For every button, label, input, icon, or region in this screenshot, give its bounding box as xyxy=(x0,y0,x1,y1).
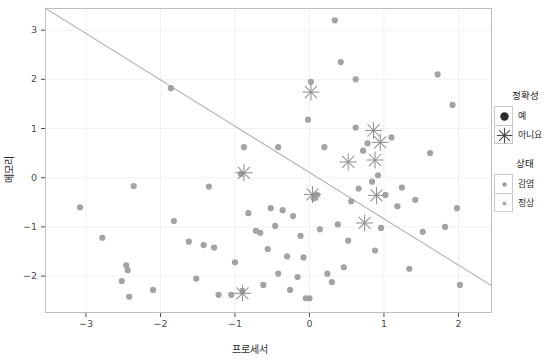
y-axis-tick-label: 1 xyxy=(13,123,37,135)
plot-panel-background xyxy=(45,8,492,313)
data-point-asterisk xyxy=(340,153,357,170)
data-point-circle xyxy=(232,259,238,265)
legend-label-status-normal: 정상 xyxy=(518,196,534,209)
data-point-circle xyxy=(375,172,381,178)
data-point-circle xyxy=(305,117,311,123)
data-point-circle xyxy=(211,244,217,250)
y-axis-tick-label: −2 xyxy=(13,270,37,282)
data-point-circle xyxy=(284,253,290,259)
y-axis-label: 메모리 xyxy=(1,140,16,200)
legend-row-status-infected[interactable]: 감염 xyxy=(494,174,558,193)
data-point-circle xyxy=(399,184,405,190)
data-point-asterisk xyxy=(367,152,384,169)
data-point-circle xyxy=(280,207,286,213)
scatter-plot-figure: 프로세서 메모리 정확성 예 xyxy=(0,0,558,362)
legend: 정확성 예 xyxy=(494,88,558,224)
accuracy-legend: 정확성 예 xyxy=(494,88,558,144)
x-axis-label: 프로세서 xyxy=(0,341,500,356)
y-axis-tick-label: −1 xyxy=(13,221,37,233)
data-point-circle xyxy=(353,76,359,82)
data-point-circle xyxy=(442,224,448,230)
data-point-circle xyxy=(260,282,266,288)
data-point-circle xyxy=(257,230,263,236)
data-point-asterisk xyxy=(368,187,385,204)
data-point-circle xyxy=(206,183,212,189)
data-point-circle xyxy=(125,267,131,273)
data-point-circle xyxy=(388,134,394,140)
data-point-asterisk xyxy=(365,122,382,139)
data-point-circle xyxy=(150,287,156,293)
data-point-circle xyxy=(300,254,306,260)
legend-label-accuracy-yes: 예 xyxy=(518,109,526,122)
data-point-circle xyxy=(356,185,362,191)
data-point-circle xyxy=(329,279,335,285)
data-point-circle xyxy=(287,287,293,293)
y-axis-tick-label: 3 xyxy=(13,24,37,36)
legend-row-status-normal[interactable]: 정상 xyxy=(494,193,558,212)
data-point-circle xyxy=(372,247,378,253)
legend-label-status-infected: 감염 xyxy=(518,177,534,190)
data-point-asterisk xyxy=(304,186,321,203)
status-legend-title: 상태 xyxy=(494,156,556,170)
small-gray-dot-icon xyxy=(494,193,513,212)
x-axis-tick-label: −2 xyxy=(148,318,172,329)
data-point-circle xyxy=(228,292,234,298)
data-point-circle xyxy=(201,242,207,248)
small-gray-dot-icon xyxy=(494,174,513,193)
filled-circle-icon xyxy=(494,106,513,125)
data-point-circle xyxy=(265,246,271,252)
data-point-asterisk xyxy=(372,134,389,151)
data-point-circle xyxy=(321,144,327,150)
data-point-circle xyxy=(186,239,192,245)
data-point-circle xyxy=(77,204,83,210)
x-axis-tick-label: 0 xyxy=(297,318,321,329)
data-point-circle xyxy=(449,102,455,108)
data-point-circle xyxy=(341,264,347,270)
status-legend: 상태 감염 정상 xyxy=(494,156,558,212)
data-point-circle xyxy=(406,266,412,272)
data-point-asterisk xyxy=(234,285,251,302)
data-point-asterisk xyxy=(356,214,373,231)
data-point-circle xyxy=(99,235,105,241)
data-point-circle xyxy=(427,150,433,156)
data-point-circle xyxy=(412,197,418,203)
data-point-circle xyxy=(360,148,366,154)
x-axis-tick-label: 2 xyxy=(446,318,470,329)
data-point-circle xyxy=(290,213,296,219)
data-point-circle xyxy=(131,183,137,189)
data-point-circle xyxy=(348,198,354,204)
data-point-circle xyxy=(338,59,344,65)
data-point-circle xyxy=(324,271,330,277)
data-point-circle xyxy=(332,17,338,23)
data-point-circle xyxy=(394,203,400,209)
data-point-circle xyxy=(335,221,341,227)
data-point-circle xyxy=(126,294,132,300)
x-axis-tick-label: −1 xyxy=(223,318,247,329)
data-point-circle xyxy=(215,292,221,298)
x-axis-tick-label: 1 xyxy=(372,318,396,329)
data-point-asterisk xyxy=(235,164,252,181)
data-point-circle xyxy=(369,179,375,185)
data-point-circle xyxy=(245,210,251,216)
asterisk-star-icon xyxy=(494,125,513,144)
legend-row-accuracy-no[interactable]: 아니요 xyxy=(494,125,558,144)
data-point-circle xyxy=(457,282,463,288)
data-point-circle xyxy=(272,223,278,229)
y-axis-tick-label: 0 xyxy=(13,172,37,184)
legend-row-accuracy-yes[interactable]: 예 xyxy=(494,106,558,125)
y-axis-tick-label: 2 xyxy=(13,73,37,85)
data-point-circle xyxy=(454,205,460,211)
data-point-circle xyxy=(119,278,125,284)
x-axis-tick-label: −3 xyxy=(74,318,98,329)
accuracy-legend-title: 정확성 xyxy=(494,88,556,102)
data-point-circle xyxy=(275,271,281,277)
legend-label-accuracy-no: 아니요 xyxy=(518,128,542,141)
data-point-circle xyxy=(364,140,370,146)
data-point-circle xyxy=(306,295,312,301)
data-point-circle xyxy=(378,225,384,231)
data-point-circle xyxy=(317,226,323,232)
data-point-circle xyxy=(345,238,351,244)
data-point-circle xyxy=(294,274,300,280)
data-point-circle xyxy=(275,144,281,150)
data-point-circle xyxy=(268,205,274,211)
